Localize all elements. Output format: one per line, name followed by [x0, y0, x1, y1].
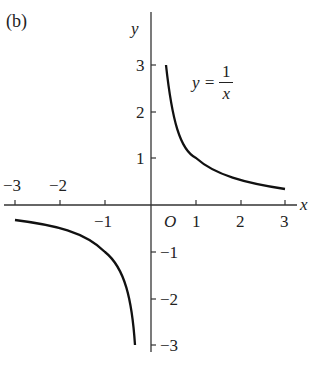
x-tick-2: 2 — [236, 213, 245, 230]
x-tick-neg1: −1 — [94, 213, 112, 230]
x-tick-1: 1 — [192, 213, 201, 230]
equation-numerator: 1 — [222, 63, 231, 80]
y-tick-2: 2 — [136, 104, 145, 121]
equation-lhs: y = — [192, 73, 215, 93]
y-tick-1: 1 — [136, 150, 145, 167]
y-tick-neg3: −3 — [160, 337, 178, 354]
y-axis-label: y — [131, 20, 139, 37]
x-tick-neg3: −3 — [3, 177, 21, 194]
x-tick-neg2: −2 — [49, 177, 67, 194]
y-tick-neg2: −2 — [160, 291, 178, 308]
chart-canvas — [0, 0, 315, 367]
equation-annotation: y = 1 x — [192, 63, 233, 102]
panel-label: (b) — [6, 12, 27, 30]
y-tick-neg1: −1 — [160, 244, 178, 261]
y-tick-3: 3 — [136, 57, 145, 74]
x-ticks — [15, 200, 285, 205]
x-tick-3: 3 — [280, 213, 289, 230]
x-axis-label: x — [300, 196, 308, 213]
equation-denominator: x — [223, 85, 231, 102]
origin-label: O — [164, 213, 176, 230]
curve-negative-branch — [15, 220, 135, 345]
